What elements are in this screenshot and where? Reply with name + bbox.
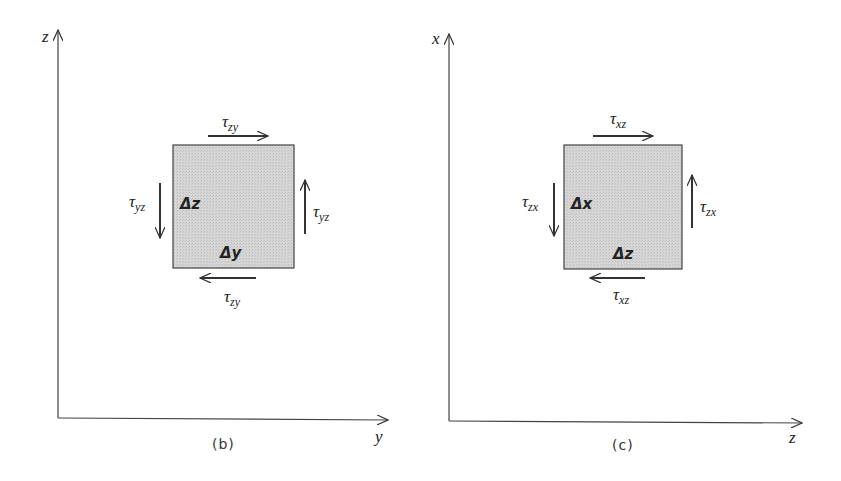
tau-subscript: zx (706, 205, 716, 219)
delta-z-label: Δz (613, 247, 633, 262)
delta-y-label: Δy (220, 246, 241, 261)
delta-z-label: Δz (180, 197, 200, 212)
tau-zx-left-label: τzx (522, 193, 538, 213)
tau-zy-top-label: τzy (222, 113, 238, 133)
panel-caption-c: (c) (612, 438, 634, 452)
z-axis-label: z (789, 429, 796, 446)
tau-subscript: zx (528, 200, 538, 214)
tau-subscript: yz (319, 210, 329, 224)
tau-yz-right-label: τyz (313, 203, 329, 223)
x-axis-label: x (432, 30, 440, 47)
panel-c (449, 34, 802, 423)
y-axis-label: y (375, 428, 383, 445)
y-axis-line (58, 418, 388, 420)
tau-subscript: xz (619, 293, 629, 307)
diagram-canvas (0, 0, 841, 481)
z-axis-label: z (42, 28, 49, 45)
panel-caption-b: (b) (212, 437, 235, 451)
tau-subscript: xz (616, 117, 626, 131)
tau-subscript: zy (230, 295, 240, 309)
tau-xz-bottom-label: τxz (613, 286, 629, 306)
tau-xz-top-label: τxz (610, 110, 626, 130)
z-axis-line (449, 421, 802, 423)
tau-subscript: yz (135, 200, 145, 214)
delta-x-label: Δx (571, 197, 592, 212)
tau-subscript: zy (228, 120, 238, 134)
tau-zx-right-label: τzx (700, 198, 716, 218)
tau-yz-left-label: τyz (129, 193, 145, 213)
tau-zy-bottom-label: τzy (224, 288, 240, 308)
panel-b (58, 30, 388, 420)
